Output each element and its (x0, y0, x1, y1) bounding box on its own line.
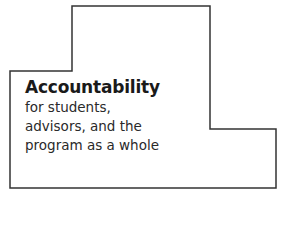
heading: Accountability (25, 77, 160, 98)
text-block: Accountability for students, advisors, a… (25, 77, 160, 155)
description-line: program as a whole (25, 136, 160, 155)
description-line: for students, (25, 98, 160, 117)
description-line: advisors, and the (25, 117, 160, 136)
